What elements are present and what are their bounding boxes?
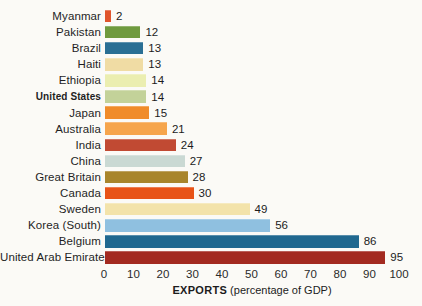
- bar-value: 56: [275, 219, 288, 231]
- bar: [105, 251, 385, 264]
- bar-row: Pakistan12: [0, 24, 422, 40]
- bar-label: Great Britain: [0, 171, 105, 183]
- bar: [105, 171, 188, 184]
- bar-label: Australia: [0, 123, 105, 135]
- bar-row: United Arab Emirates95: [0, 249, 422, 265]
- bar-value: 21: [172, 123, 185, 135]
- bar: [105, 139, 176, 152]
- bar-label: Sweden: [0, 203, 105, 215]
- bar-label: Japan: [0, 107, 105, 119]
- bar-value: 15: [154, 107, 167, 119]
- bar-value: 86: [364, 235, 377, 247]
- bar-row: India24: [0, 137, 422, 153]
- bar-value: 27: [190, 155, 203, 167]
- x-axis-tick-label: 50: [245, 268, 258, 280]
- bar-value: 12: [145, 26, 158, 38]
- x-axis-title-bold: EXPORTS: [172, 284, 227, 296]
- bar-label: Pakistan: [0, 26, 105, 38]
- bar-label: Canada: [0, 187, 105, 199]
- bar-value: 24: [181, 139, 194, 151]
- bar-value: 13: [148, 58, 161, 70]
- bar-value: 30: [199, 187, 212, 199]
- bar: [105, 235, 359, 248]
- bar-row: Korea (South)56: [0, 217, 422, 233]
- x-axis-tick-label: 80: [334, 268, 347, 280]
- bar-row: Sweden49: [0, 201, 422, 217]
- bar: [105, 90, 146, 103]
- bar: [105, 58, 143, 71]
- bar-label: Belgium: [0, 235, 105, 247]
- bar: [105, 74, 146, 87]
- bar-label: Ethiopia: [0, 74, 105, 86]
- x-axis-tick-label: 0: [101, 268, 107, 280]
- x-axis-tick-label: 90: [363, 268, 376, 280]
- bar-label: Korea (South): [0, 219, 105, 231]
- bar-label: United States: [0, 91, 105, 102]
- bar-row: United States14: [0, 88, 422, 104]
- x-axis-title: EXPORTS (percentage of GDP): [104, 284, 400, 296]
- bar-value: 13: [148, 42, 161, 54]
- x-axis-tick-label: 10: [127, 268, 140, 280]
- bar-row: Haiti13: [0, 56, 422, 72]
- bar: [105, 219, 270, 232]
- x-axis-title-rest: (percentage of GDP): [227, 284, 332, 296]
- bar-value: 28: [193, 171, 206, 183]
- bar: [105, 42, 143, 55]
- x-axis-tick-label: 60: [275, 268, 288, 280]
- bar: [105, 203, 250, 216]
- bar: [105, 155, 185, 168]
- bar-value: 14: [151, 74, 164, 86]
- bar-row: Canada30: [0, 185, 422, 201]
- bar: [105, 10, 111, 23]
- bar-value: 49: [255, 203, 268, 215]
- x-axis: 0102030405060708090100: [104, 268, 422, 282]
- bar-row: Ethiopia14: [0, 72, 422, 88]
- bar-label: India: [0, 139, 105, 151]
- bar-value: 14: [151, 91, 164, 103]
- bar: [105, 187, 194, 200]
- bar-row: Belgium86: [0, 233, 422, 249]
- bar: [105, 106, 149, 119]
- bar-chart: Myanmar2Pakistan12Brazil13Haiti13Ethiopi…: [0, 8, 422, 296]
- bar-row: Brazil13: [0, 40, 422, 56]
- bar-label: China: [0, 155, 105, 167]
- bar-row: China27: [0, 153, 422, 169]
- bar-label: Haiti: [0, 58, 105, 70]
- bar-row: Myanmar2: [0, 8, 422, 24]
- x-axis-tick-label: 30: [186, 268, 199, 280]
- bar-label: Myanmar: [0, 10, 105, 22]
- x-axis-tick-label: 70: [304, 268, 317, 280]
- bar-row: Australia21: [0, 121, 422, 137]
- bar-row: Japan15: [0, 105, 422, 121]
- bar-value: 95: [390, 251, 403, 263]
- bar-label: United Arab Emirates: [0, 251, 105, 263]
- x-axis-tick-label: 40: [216, 268, 229, 280]
- bar-row: Great Britain28: [0, 169, 422, 185]
- bar: [105, 26, 140, 39]
- bar-value: 2: [116, 10, 122, 22]
- bar: [105, 122, 167, 135]
- x-axis-tick-label: 100: [389, 268, 408, 280]
- bar-rows: Myanmar2Pakistan12Brazil13Haiti13Ethiopi…: [0, 8, 422, 266]
- x-axis-tick-label: 20: [157, 268, 170, 280]
- bar-label: Brazil: [0, 42, 105, 54]
